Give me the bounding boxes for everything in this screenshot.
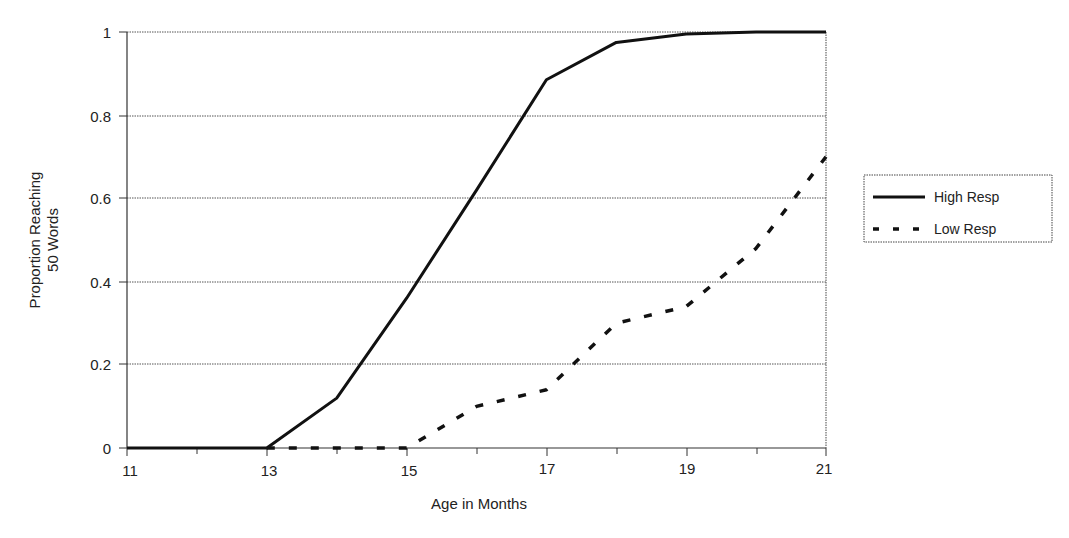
- y-tick-labels: 1 0.8 0.6 0.4 0.2 0: [90, 24, 111, 457]
- legend: High Resp Low Resp: [864, 175, 1052, 242]
- y-axis-title-line1: Proportion Reaching: [26, 172, 43, 309]
- y-axis-title: Proportion Reaching 50 Words: [26, 172, 61, 309]
- gridlines: [127, 32, 826, 364]
- series-high-resp: [127, 32, 826, 448]
- x-tick-labels: 11 13 15 17 19 21: [122, 460, 832, 479]
- x-tick-label: 21: [816, 460, 833, 477]
- y-tick-label: 0.4: [90, 274, 111, 291]
- y-tick-label: 0.8: [90, 108, 111, 125]
- x-tick-label: 15: [401, 462, 418, 479]
- line-chart: 1 0.8 0.6 0.4 0.2 0 11 13 15 17 19 21 Ag…: [0, 0, 1069, 538]
- y-tick-label: 0: [103, 440, 111, 457]
- legend-label: Low Resp: [934, 221, 996, 237]
- x-axis-title: Age in Months: [431, 495, 527, 512]
- y-tick-label: 1: [103, 24, 111, 41]
- x-tick-label: 19: [679, 460, 696, 477]
- y-ticks: [119, 32, 127, 448]
- legend-label: High Resp: [934, 189, 1000, 205]
- axes: [127, 32, 826, 448]
- x-tick-label: 13: [261, 462, 278, 479]
- y-axis-title-line2: 50 Words: [44, 208, 61, 272]
- x-tick-label: 17: [539, 460, 556, 477]
- y-tick-label: 0.6: [90, 190, 111, 207]
- x-tick-label: 11: [122, 462, 138, 479]
- series-low-resp: [267, 157, 826, 448]
- y-tick-label: 0.2: [90, 356, 111, 373]
